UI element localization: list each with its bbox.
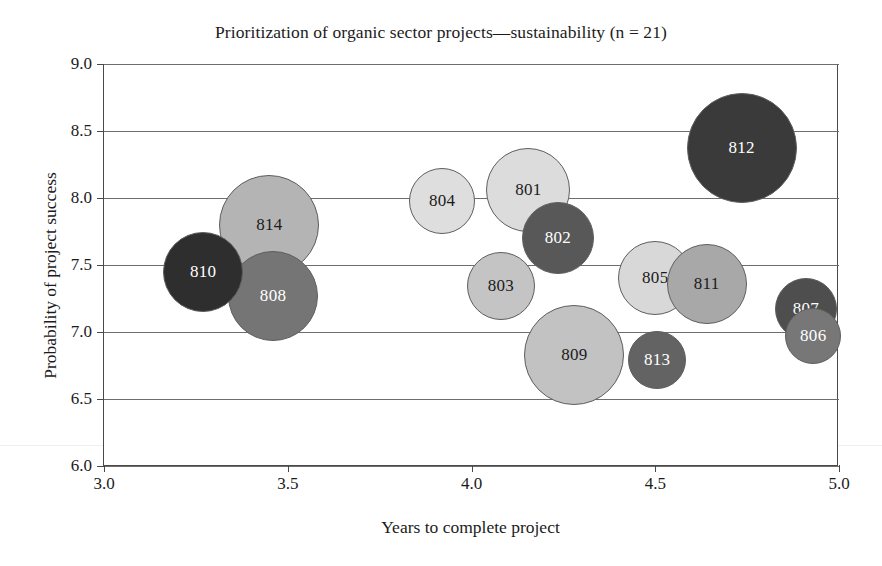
bubble-806[interactable]: 806: [785, 308, 841, 364]
bubble-813[interactable]: 813: [628, 331, 686, 389]
x-axis-label: Years to complete project: [103, 517, 838, 538]
bubble-label: 801: [515, 180, 541, 200]
x-tick-mark: [472, 465, 473, 472]
bubble-label: 805: [642, 268, 668, 288]
bubble-label: 811: [694, 274, 720, 294]
scan-artifact-right: [838, 445, 882, 446]
gridline: [104, 399, 839, 400]
bubble-811[interactable]: 811: [667, 244, 747, 324]
plot-area: 9.08.58.07.57.06.56.0 3.03.54.04.55.0 80…: [103, 64, 838, 466]
bubble-804[interactable]: 804: [409, 168, 475, 234]
bubble-803[interactable]: 803: [467, 252, 535, 320]
x-tick-label: 3.0: [74, 474, 134, 494]
bubble-label: 806: [800, 326, 826, 346]
x-tick-mark: [655, 465, 656, 472]
y-tick-label: 6.5: [32, 389, 92, 409]
x-tick-label: 5.0: [809, 474, 869, 494]
gridline: [104, 332, 839, 333]
bubble-label: 814: [256, 215, 282, 235]
x-tick-label: 3.5: [258, 474, 318, 494]
y-tick-mark: [97, 198, 104, 199]
y-tick-mark: [97, 265, 104, 266]
y-tick-mark: [97, 466, 104, 467]
bubble-label: 803: [488, 276, 514, 296]
gridline: [104, 64, 839, 65]
chart-title: Prioritization of organic sector project…: [0, 22, 882, 43]
bubble-809[interactable]: 809: [524, 305, 624, 405]
y-tick-label: 8.0: [32, 188, 92, 208]
y-tick-mark: [97, 64, 104, 65]
x-tick-mark: [839, 465, 840, 472]
y-tick-label: 8.5: [32, 121, 92, 141]
bubble-chart-figure: Prioritization of organic sector project…: [0, 0, 882, 566]
bubble-812[interactable]: 812: [687, 93, 797, 203]
bubble-810[interactable]: 810: [163, 232, 243, 312]
y-tick-mark: [97, 332, 104, 333]
bubble-802[interactable]: 802: [522, 202, 594, 274]
bubble-label: 812: [728, 138, 754, 158]
y-tick-label: 6.0: [32, 456, 92, 476]
x-tick-mark: [104, 465, 105, 472]
y-tick-label: 7.5: [32, 255, 92, 275]
x-tick-mark: [288, 465, 289, 472]
y-tick-label: 9.0: [32, 54, 92, 74]
bubble-label: 809: [561, 345, 587, 365]
bubble-label: 813: [644, 350, 670, 370]
y-tick-mark: [97, 131, 104, 132]
bubble-label: 804: [429, 191, 455, 211]
x-tick-label: 4.0: [442, 474, 502, 494]
y-tick-label: 7.0: [32, 322, 92, 342]
bubble-label: 810: [190, 262, 216, 282]
x-tick-label: 4.5: [625, 474, 685, 494]
bubble-label: 802: [545, 228, 571, 248]
y-tick-mark: [97, 399, 104, 400]
bubble-label: 808: [260, 286, 286, 306]
